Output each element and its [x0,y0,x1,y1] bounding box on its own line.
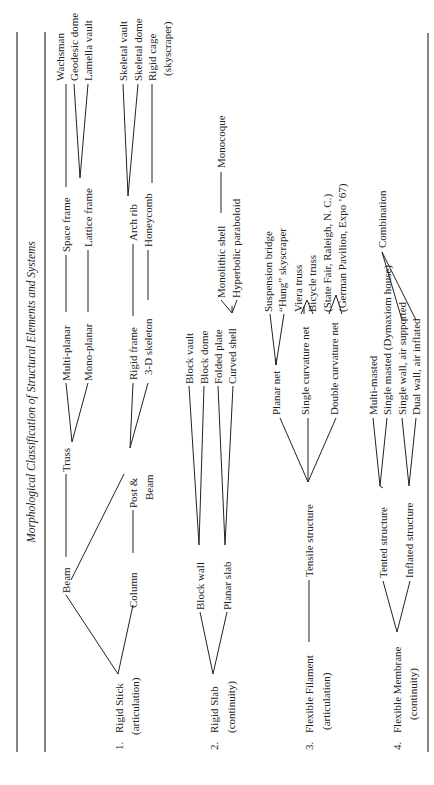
example-hung-skyscraper: “Hung” skyscraper [276,228,288,312]
system-truss: Truss [60,448,72,472]
system-beam: Beam [143,474,155,500]
element-beam: Beam [60,567,72,593]
type-honeycomb: Honeycomb [142,193,154,247]
system-post: Post & [127,477,139,508]
example-german-pavilion: (German Pavilion, Expo ’67) [336,183,349,312]
type-lattice-frame: Lattice frame [82,188,94,247]
row-number: 4. [391,742,403,751]
element-column: Column [127,572,139,608]
example-skeletal-vault: Skeletal vault [117,21,129,81]
example-rigid-cage: Rigid cage [146,34,158,81]
category-subtitle: (continuity) [407,668,420,720]
example-bicycle-truss: Bicycle truss [306,255,318,312]
type-curved-shell: Curved shell [226,328,238,384]
example-suspension-bridge: Suspension bridge [262,231,274,312]
category-subtitle: (articulation) [129,677,142,735]
subsystem-mono-planar: Mono-planar [82,323,94,381]
type-arch-rib: Arch rib [127,204,139,241]
type-multi-masted: Multi-masted [367,355,379,415]
type-block-dome: Block dome [198,330,210,384]
type-single-curvature-net: Single curvature net [299,326,311,415]
subtype-monolithic-shell: Monolithic shell [215,226,227,298]
type-folded-plate: Folded plate [212,329,224,384]
example-geodesic-dome: Geodesic dome [68,13,80,81]
element-tented-structure: Tented structure [377,507,389,578]
row-number: 3. [303,742,315,751]
classification-table: Morphological Classification of Structur… [0,0,434,785]
example-lamella-vault: Lamella vault [82,20,94,81]
example-combination: Combination [376,190,388,248]
type-planar-net: Planar net [270,371,282,415]
element-inflated-structure: Inflated structure [403,502,415,578]
category-label: Flexible Membrane [391,646,403,733]
example-skyscraper: (skyscraper) [161,21,174,76]
row-flexible-membrane: 4. Flexible Membrane (continuity) Tented… [367,190,422,750]
type-block-vault: Block vault [183,333,195,384]
example-monocoque: Monocoque [215,115,227,168]
example-skeletal-dome: Skeletal dome [132,18,144,81]
example-state-fair: (State Fair, Raleigh, N. C.) [321,194,334,312]
subsystem-3d-skeleton: 3-D skeleton [142,318,154,375]
row-flexible-filament: 3. Flexible Filament (articulation) Tens… [262,183,349,750]
subsystem-rigid-frame: Rigid frame [127,327,139,380]
subsystem-multi-planar: Multi-planar [60,325,72,381]
row-rigid-slab: 2. Rigid Slab (continuity) Block wall Pl… [183,115,242,750]
category-subtitle: (continuity) [225,681,238,733]
example-wachsman: Wachsman [54,33,66,81]
type-dual-wall: Dual wall, air inflated [410,318,422,415]
subtype-hyperbolic-paraboloid: Hyperbolic paraboloid [230,198,242,298]
row-rigid-stick: 1. Rigid Stick (articulation) Beam Colum… [54,13,174,750]
category-label: Flexible Filament [303,655,315,733]
element-block-wall: Block wall [194,562,206,610]
category-label: Rigid Slab [208,686,220,733]
row-number: 1. [113,742,125,751]
element-tensile-structure: Tensile structure [303,504,315,577]
category-label: Rigid Stick [113,683,125,733]
type-space-frame: Space frame [60,197,72,252]
type-double-curvature-net: Double curvature net [328,322,340,415]
category-subtitle: (articulation) [320,672,333,730]
row-number: 2. [208,742,220,751]
element-planar-slab: Planar slab [221,561,233,610]
table-title: Morphological Classification of Structur… [25,241,38,544]
example-viera-truss: Viera truss [292,265,304,312]
